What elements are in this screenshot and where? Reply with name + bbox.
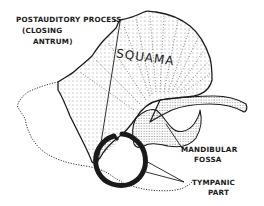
temporal-bone-diagram: POSTAUDITORY PROCESS (CLOSING ANTRUM) SQ… [0, 0, 264, 206]
label-closing: (CLOSING [22, 26, 62, 35]
label-fossa: FOSSA [194, 155, 222, 164]
label-tympanic: TYMPANIC [192, 178, 235, 187]
tympanic-ring [96, 134, 146, 186]
mandibular-fossa [133, 109, 202, 147]
label-postauditory-process: POSTAUDITORY PROCESS [16, 15, 122, 24]
label-part: PART [208, 188, 229, 197]
tympanic-pointer [144, 160, 184, 182]
label-mandibular: MANDIBULAR [181, 145, 238, 154]
label-antrum: ANTRUM) [33, 37, 73, 46]
